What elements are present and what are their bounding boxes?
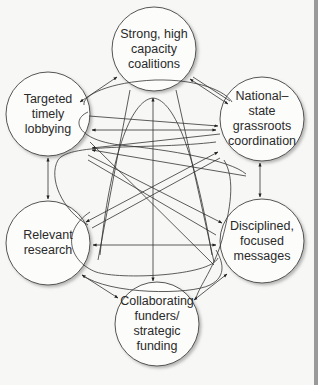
line-coalitions-research [98,90,130,260]
arrow-research-grassroots-2 [92,158,220,228]
node-lobbying-label: Targeted timely lobbying [8,92,88,137]
label-line: strategic [117,324,197,339]
label-line: timely [8,107,88,122]
label-line: Strong, high [114,27,194,42]
label-line: messages [222,249,302,264]
node-coalitions-label: Strong, high capacity coalitions [114,27,194,72]
label-line: funders/ [117,309,197,324]
label-line: Targeted [8,92,88,107]
label-line: Disciplined, [222,219,302,234]
node-grassroots-label: National– state grassroots coordination [222,89,302,149]
label-line: coalitions [114,57,194,72]
node-messages-label: Disciplined, focused messages [222,219,302,264]
arrow-messages-funding [194,274,227,300]
label-line: state [222,104,302,119]
label-line: coordination [222,134,302,149]
label-line: grassroots [222,119,302,134]
line-coalitions-messages [176,90,214,262]
label-line: capacity [114,42,194,57]
node-funding-label: Collaborating funders/ strategic funding [117,294,197,354]
arrow-lobbying-messages-2 [88,160,216,235]
loop-grassroots-research [55,142,216,225]
arrow-lobbying-messages [88,155,222,223]
label-line: funding [117,339,197,354]
arrow-grassroots-lobbying-2 [89,116,218,126]
label-line: Collaborating [117,294,197,309]
label-line: research [8,243,88,258]
label-line: Relevant [8,228,88,243]
label-line: National– [222,89,302,104]
label-line: lobbying [8,122,88,137]
node-research-label: Relevant research [8,228,88,258]
label-line: focused [222,234,302,249]
page-edge-bar [314,0,318,385]
curve-messages-research [72,212,218,276]
